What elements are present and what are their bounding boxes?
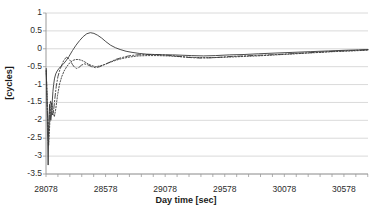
x-tick-label: 30578: [332, 184, 356, 194]
y-tick-label: -1.5: [14, 97, 42, 106]
x-tick-label: 29078: [153, 184, 177, 194]
x-tick-label: 28578: [94, 184, 118, 194]
chart-line-dashdot: [46, 50, 368, 137]
y-tick-label: 1: [14, 8, 42, 17]
x-axis-title: Day time [sec]: [0, 195, 372, 205]
y-tick-label: -3.5: [14, 169, 42, 178]
y-tick-label: -3: [14, 151, 42, 160]
chart-container: 10.50-0.5-1-1.5-2-2.5-3-3.5 280782857829…: [0, 0, 372, 214]
y-tick-label: -1: [14, 80, 42, 89]
y-tick-label: 0.5: [14, 26, 42, 35]
x-tick-label: 30078: [273, 184, 297, 194]
x-tick-label: 29578: [213, 184, 237, 194]
y-axis-title: [cycles]: [4, 48, 14, 118]
y-tick-label: -2.5: [14, 133, 42, 142]
y-tick-label: -0.5: [14, 62, 42, 71]
y-tick-label: 0: [14, 44, 42, 53]
y-tick-label: -2: [14, 115, 42, 124]
chart-line-dotted: [46, 50, 368, 145]
x-tick-label: 28078: [34, 184, 58, 194]
